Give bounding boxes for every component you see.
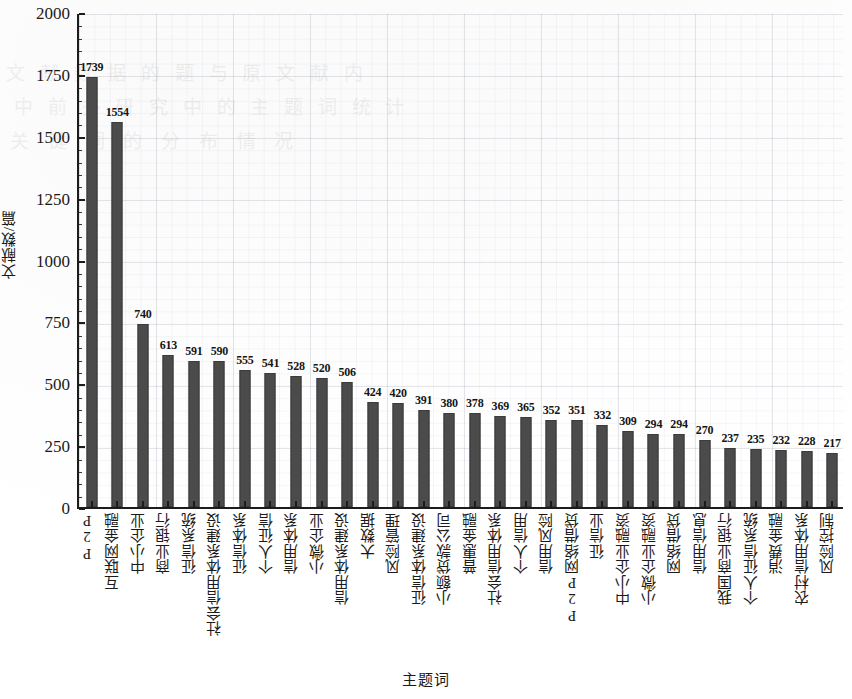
bar-slot: 232	[768, 14, 794, 507]
y-axis-tick-label: 1000	[36, 252, 79, 272]
x-axis-category-label: 征信体系建设	[412, 512, 432, 609]
bar-slot: 424	[360, 14, 386, 507]
x-axis-category-labels: P2P互联网金融中小企业商业银行征信系统社会信用体系建设征信体系个人征信信用体系…	[77, 512, 843, 652]
bar[interactable]	[239, 370, 250, 507]
bar[interactable]	[214, 361, 225, 507]
bar-value-label: 352	[543, 403, 560, 418]
y-axis-tick-label: 500	[45, 375, 80, 395]
x-axis-category-label: 小微企业融资	[642, 512, 662, 609]
x-axis-category-label: 风险管理	[386, 512, 406, 578]
x-axis-category-label: 个人征信	[259, 512, 279, 578]
x-axis-tick-mark	[295, 501, 297, 507]
bar-slot: 506	[334, 14, 360, 507]
bar[interactable]	[674, 434, 685, 507]
x-axis-tick-mark	[601, 501, 603, 507]
x-axis-category-label: 社会信用体系建设	[207, 512, 227, 640]
plot-area: 025050075010001250150017502000 173915547…	[77, 14, 843, 509]
bar[interactable]	[597, 425, 608, 507]
x-axis-tick-mark	[91, 501, 93, 507]
bar[interactable]	[316, 378, 327, 507]
bar[interactable]	[648, 434, 659, 507]
bar[interactable]	[393, 403, 404, 507]
bar[interactable]	[342, 382, 353, 507]
bar[interactable]	[699, 440, 710, 507]
x-axis-tick-mark	[142, 501, 144, 507]
bar-slot: 591	[181, 14, 207, 507]
bar[interactable]	[520, 417, 531, 507]
bar-slot: 380	[436, 14, 462, 507]
bar[interactable]	[418, 410, 429, 507]
x-axis-category-label: 中小企业融资	[616, 512, 636, 609]
bar-slot: 369	[488, 14, 514, 507]
bar-slot: 528	[283, 14, 309, 507]
bar-slot: 1739	[79, 14, 105, 507]
bar-slot: 237	[717, 14, 743, 507]
y-axis-tick-label: 250	[45, 437, 80, 457]
bar[interactable]	[801, 451, 812, 507]
x-axis-category-label: 大数据	[361, 512, 381, 563]
bar-slot: 217	[819, 14, 845, 507]
bar-slot: 740	[130, 14, 156, 507]
bar-slot: 520	[309, 14, 335, 507]
bar[interactable]	[112, 122, 123, 507]
bar-slot: 420	[385, 14, 411, 507]
bar-slot: 613	[156, 14, 182, 507]
bar[interactable]	[571, 420, 582, 507]
bar-value-label: 520	[313, 361, 330, 376]
bar-slot: 294	[666, 14, 692, 507]
x-axis-category-label: 互联网金融	[105, 512, 125, 594]
bar-slot: 590	[207, 14, 233, 507]
bar[interactable]	[776, 450, 787, 507]
x-axis-tick-mark	[244, 501, 246, 507]
x-axis-category-label: 征信体系	[233, 512, 253, 578]
y-axis-tick-label: 750	[45, 313, 80, 333]
bar[interactable]	[188, 361, 199, 507]
bar[interactable]	[444, 413, 455, 507]
x-axis-category-label: 信用风险	[539, 512, 559, 578]
x-axis-tick-mark	[269, 501, 271, 507]
x-axis-category-label: 中小企业	[131, 512, 151, 578]
bar[interactable]	[265, 373, 276, 507]
bar[interactable]	[163, 355, 174, 507]
x-axis-tick-mark	[576, 501, 578, 507]
x-axis-category-label: 消费金融	[769, 512, 789, 578]
bar[interactable]	[622, 431, 633, 507]
bar[interactable]	[291, 376, 302, 507]
x-axis-tick-mark	[499, 501, 501, 507]
bar-slot: 332	[590, 14, 616, 507]
bar[interactable]	[86, 77, 97, 507]
x-axis-tick-mark	[550, 501, 552, 507]
x-axis-tick-mark	[423, 501, 425, 507]
x-axis-category-label: 信用体系建设	[335, 512, 355, 609]
x-axis-tick-mark	[525, 501, 527, 507]
bar[interactable]	[367, 402, 378, 507]
x-axis-category-label: 商业银行	[156, 512, 176, 578]
bar-series: 1739155474061359159055554152852050642442…	[79, 14, 843, 507]
bar[interactable]	[137, 324, 148, 507]
bar-slot: 228	[794, 14, 820, 507]
x-axis-category-label: 农村信用体系	[795, 512, 815, 609]
x-axis-category-label: 风险控制	[820, 512, 840, 578]
bar[interactable]	[469, 413, 480, 507]
x-axis-tick-mark	[780, 501, 782, 507]
bar[interactable]	[725, 448, 736, 507]
bar-value-label: 528	[287, 359, 304, 374]
bar[interactable]	[750, 449, 761, 507]
x-axis-tick-mark	[652, 501, 654, 507]
x-axis-category-label: 个人信用	[514, 512, 534, 578]
bar-slot: 309	[615, 14, 641, 507]
x-axis-category-label: 普惠金融	[463, 512, 483, 578]
x-axis-tick-mark	[678, 501, 680, 507]
bar-value-label: 365	[517, 400, 534, 415]
bar-value-label: 270	[696, 423, 713, 438]
bar-slot: 270	[692, 14, 718, 507]
bar[interactable]	[546, 420, 557, 507]
bar-slot: 378	[462, 14, 488, 507]
y-axis-title: 文献数/篇	[2, 210, 28, 279]
bar-value-label: 420	[389, 386, 406, 401]
bar[interactable]	[495, 416, 506, 507]
bar[interactable]	[827, 453, 838, 507]
x-axis-tick-mark	[193, 501, 195, 507]
x-axis-category-label: 小额贷款公司	[437, 512, 457, 609]
bar-value-label: 391	[415, 393, 432, 408]
